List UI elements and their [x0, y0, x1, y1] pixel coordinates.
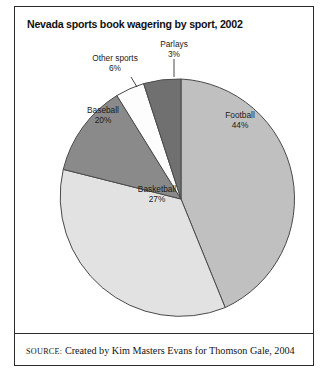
figure-frame: Nevada sports book wagering by sport, 20… — [14, 6, 314, 366]
pie-label-football: Football 44% — [225, 110, 255, 130]
pie-label-football-pct: 44% — [225, 120, 255, 130]
pie-label-basketball-pct: 27% — [138, 194, 176, 204]
pie-label-other-sports-pct: 6% — [92, 63, 138, 73]
pie-label-baseball: Baseball 20% — [87, 105, 119, 125]
figure-caption-clipped: FIGURE 4.2 — [13, 0, 163, 3]
pie-label-basketball: Basketball 27% — [138, 184, 176, 204]
pie-label-other-sports: Other sports 6% — [92, 53, 138, 73]
source-text: Created by Kim Masters Evans for Thomson… — [65, 345, 295, 356]
figure-page: FIGURE 4.2 Nevada sports book wagering b… — [0, 0, 328, 375]
source-note: SOURCE: Created by Kim Masters Evans for… — [26, 345, 295, 356]
pie-label-basketball-name: Basketball — [138, 184, 176, 194]
pie-label-football-name: Football — [225, 110, 255, 120]
pie-label-parlays-pct: 3% — [160, 49, 188, 59]
pie-label-baseball-pct: 20% — [87, 115, 119, 125]
pie-label-parlays-name: Parlays — [160, 39, 188, 49]
pie-label-other-sports-name: Other sports — [92, 53, 138, 63]
source-label: SOURCE: — [26, 347, 62, 356]
pie-chart: Football 44% Basketball 27% Baseball 20%… — [15, 7, 313, 337]
source-divider — [15, 333, 313, 334]
pie-label-baseball-name: Baseball — [87, 105, 119, 115]
pie-label-parlays: Parlays 3% — [160, 39, 188, 59]
